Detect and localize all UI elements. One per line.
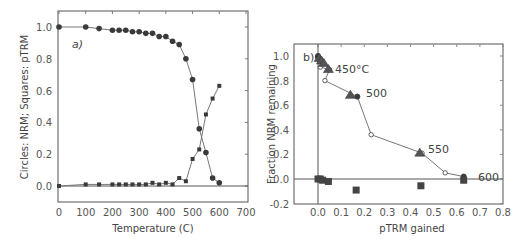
ptrm-point (204, 112, 208, 116)
nrm-point (83, 24, 89, 30)
ptrm-point (151, 181, 155, 185)
y-tick-label: 0.8 (36, 54, 52, 65)
ptrm-point (144, 182, 148, 186)
nrm-point (150, 31, 156, 37)
temperature-annotation: 450°C (335, 63, 369, 76)
nrm-point (203, 150, 209, 156)
x-tick-label: 500 (183, 207, 202, 218)
nrm-point (170, 39, 176, 45)
ptrm-point (197, 147, 201, 151)
x-tick-label: 400 (156, 207, 175, 218)
panel-b-xlabel: pTRM gained (379, 223, 444, 234)
x-tick-label: 0.7 (472, 207, 488, 218)
x-tick-label: 700 (236, 207, 255, 218)
ptrm-point (110, 182, 114, 186)
temperature-annotation: 550 (428, 143, 449, 156)
temperature-annotation: 600 (478, 171, 499, 184)
x-tick-label: 0.8 (495, 207, 511, 218)
arai-point (443, 171, 447, 175)
panel-b-label: b) (303, 51, 314, 64)
ptrm-point (57, 184, 61, 188)
x-tick-label: 0.6 (449, 207, 465, 218)
x-tick-label: 0.3 (379, 207, 395, 218)
ptrm-point (130, 182, 134, 186)
nrm-point (56, 24, 62, 30)
ptrm-point (117, 182, 121, 186)
nrm-point (196, 126, 202, 132)
ptrm-point (177, 176, 181, 180)
y-tick-label: 0.4 (36, 117, 52, 128)
panel-a-label: a) (72, 38, 83, 51)
y-tick-label: 1.0 (36, 22, 52, 33)
nrm-point (130, 29, 136, 35)
x-tick-label: 0.2 (356, 207, 372, 218)
ptrm-point (184, 179, 188, 183)
nrm-point (116, 27, 122, 33)
panel-b-ticks: 0.00.10.20.30.40.50.60.70.8-0.20.00.20.4… (269, 44, 510, 218)
x-tick-label: 0.4 (403, 207, 419, 218)
panel-a-frame (58, 11, 248, 202)
x-tick-label: 200 (103, 207, 122, 218)
x-tick-label: 0.5 (426, 207, 442, 218)
nrm-point (190, 77, 196, 83)
ptrm-point (164, 181, 168, 185)
ptrm-point (171, 182, 175, 186)
nrm-point (96, 26, 102, 32)
ptrm-point (124, 182, 128, 186)
ptrm-point (217, 84, 221, 88)
x-tick-label: 0.1 (333, 207, 349, 218)
nrm-point (123, 27, 129, 33)
nrm-point (216, 180, 222, 186)
ptrm-point (137, 182, 141, 186)
ptrm-point (157, 182, 161, 186)
arai-point (323, 78, 327, 82)
ptrm-point (84, 182, 88, 186)
nrm-point (136, 29, 142, 35)
x-tick-label: 300 (130, 207, 149, 218)
nrm-point (183, 56, 189, 62)
ptrm-point (191, 157, 195, 161)
panel-a-xlabel: Temperature (C) (111, 223, 193, 234)
tail-check-square (353, 187, 360, 194)
tail-check-square (417, 182, 424, 189)
arai-point (369, 133, 373, 137)
tail-check-square (325, 178, 332, 185)
nrm-point (110, 27, 116, 33)
y-tick-label: 1.0 (273, 51, 289, 62)
x-tick-label: 600 (210, 207, 229, 218)
x-tick-label: 0 (56, 207, 62, 218)
panel-a-chart: 01002003004005006007000.00.20.40.60.81.0… (19, 11, 256, 234)
nrm-point (156, 34, 162, 40)
nrm-point (163, 34, 169, 40)
panel-b-ylabel: Fraction NRM remaining (266, 64, 277, 184)
y-tick-label: 0.6 (36, 86, 52, 97)
tail-check-square (460, 177, 467, 184)
y-tick-label: 0.0 (36, 181, 52, 192)
ptrm-point (211, 97, 215, 101)
temperature-annotation: 500 (366, 87, 387, 100)
x-tick-label: 0.0 (310, 207, 326, 218)
figure: 01002003004005006007000.00.20.40.60.81.0… (0, 0, 529, 239)
nrm-point (143, 31, 149, 37)
y-tick-label: 0.2 (36, 149, 52, 160)
x-tick-label: 100 (76, 207, 95, 218)
nrm-point (176, 42, 182, 48)
nrm-point (210, 175, 216, 181)
panel-a-ticks: 01002003004005006007000.00.20.40.60.81.0 (36, 11, 255, 218)
y-tick-label: -0.2 (269, 199, 289, 210)
panel-b-annotations: 450°C500550600 (335, 63, 499, 184)
ptrm-point (97, 182, 101, 186)
panel-b-chart: 0.00.10.20.30.40.50.60.70.8-0.20.00.20.4… (266, 44, 511, 234)
panel-a-ylabel: Circles: NRM; Squares: pTRM (19, 35, 30, 179)
